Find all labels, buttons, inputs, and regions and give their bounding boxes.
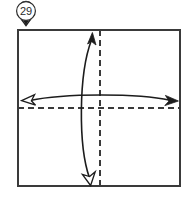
- map-pin-icon: 29: [17, 2, 36, 26]
- origami-step-diagram: 29: [0, 0, 191, 197]
- figure-canvas: 29: [0, 0, 191, 197]
- step-marker-number: 29: [20, 5, 32, 17]
